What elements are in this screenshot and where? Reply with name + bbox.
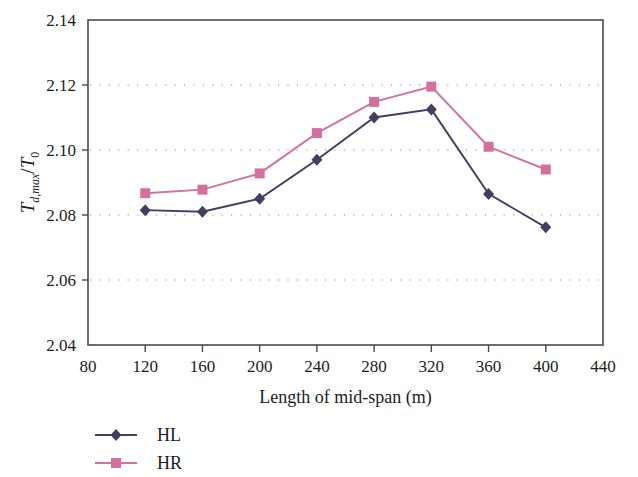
data-point-hr-320 bbox=[426, 82, 436, 92]
x-tick-label: 440 bbox=[590, 357, 616, 376]
data-point-hr-400 bbox=[541, 165, 551, 175]
y-axis-title: Td,max/T0 bbox=[17, 152, 42, 213]
legend-label-hl: HL bbox=[157, 425, 181, 445]
legend-marker-hr bbox=[111, 458, 121, 468]
y-tick-label: 2.04 bbox=[46, 336, 76, 355]
y-tick-label: 2.10 bbox=[46, 141, 76, 160]
x-tick-label: 160 bbox=[190, 357, 216, 376]
line-chart: 2.042.062.082.102.122.148012016020024028… bbox=[0, 0, 638, 477]
legend-marker-hl bbox=[111, 429, 122, 441]
data-point-hl-240 bbox=[311, 154, 322, 166]
x-tick-label: 320 bbox=[419, 357, 445, 376]
data-point-hr-120 bbox=[140, 188, 150, 198]
data-point-hl-160 bbox=[197, 206, 208, 218]
plot-frame bbox=[88, 20, 603, 345]
data-point-hr-160 bbox=[197, 185, 207, 195]
x-axis-title: Length of mid-span (m) bbox=[259, 387, 431, 408]
svg-text:Td,max/T0: Td,max/T0 bbox=[17, 152, 42, 213]
data-point-hr-360 bbox=[484, 142, 494, 152]
data-point-hr-200 bbox=[255, 168, 265, 178]
x-tick-label: 240 bbox=[304, 357, 330, 376]
data-point-hl-200 bbox=[254, 193, 265, 205]
x-tick-label: 280 bbox=[361, 357, 387, 376]
y-tick-label: 2.08 bbox=[46, 206, 76, 225]
y-tick-label: 2.06 bbox=[46, 271, 76, 290]
legend-label-hr: HR bbox=[157, 453, 182, 473]
x-tick-label: 400 bbox=[533, 357, 559, 376]
data-point-hr-280 bbox=[369, 97, 379, 107]
chart-figure: 2.042.062.082.102.122.148012016020024028… bbox=[0, 0, 638, 477]
x-tick-label: 360 bbox=[476, 357, 502, 376]
y-tick-label: 2.12 bbox=[46, 76, 76, 95]
x-tick-label: 120 bbox=[132, 357, 158, 376]
data-point-hr-240 bbox=[312, 128, 322, 138]
data-point-hl-280 bbox=[369, 112, 380, 124]
data-point-hl-400 bbox=[540, 221, 551, 233]
x-tick-label: 200 bbox=[247, 357, 273, 376]
data-point-hl-120 bbox=[140, 204, 151, 216]
series-line-hr bbox=[145, 87, 546, 194]
x-tick-label: 80 bbox=[80, 357, 97, 376]
y-tick-label: 2.14 bbox=[46, 11, 76, 30]
